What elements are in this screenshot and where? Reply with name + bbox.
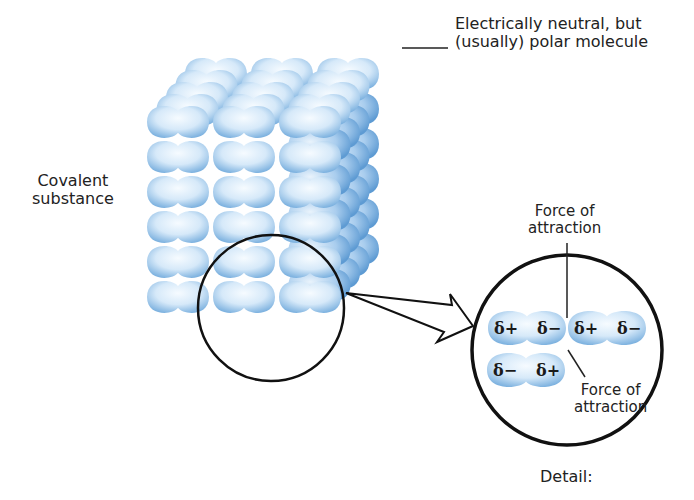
diagram-stage: δ+δ−δ+δ−δ−δ+ Electrically neutral, but (…: [0, 0, 694, 500]
magnify-arrow: [346, 293, 473, 342]
label-line: Electrically neutral, but: [455, 15, 648, 33]
partial-charge-label: δ+: [574, 319, 598, 338]
label-line: Force of: [528, 203, 601, 220]
lattice-molecule: [213, 141, 275, 173]
force-of-attraction-bottom-label: Force of attraction: [574, 382, 647, 415]
diagram-canvas: δ+δ−δ+δ−δ−δ+: [0, 0, 694, 500]
lattice-molecule: [213, 211, 275, 243]
label-line: (usually) polar molecule: [455, 33, 648, 51]
label-line: Covalent: [32, 172, 114, 190]
label-line: substance: [32, 190, 114, 208]
molecule-lattice-cube: [147, 58, 379, 313]
partial-charge-label: δ−: [537, 319, 561, 338]
lattice-molecule: [147, 246, 209, 278]
detail-caption: Detail:: [540, 468, 593, 486]
label-line: Force of: [574, 382, 647, 399]
covalent-substance-label: Covalent substance: [32, 172, 114, 207]
partial-charge-label: δ+: [536, 361, 560, 380]
label-line: attraction: [574, 399, 647, 416]
polar-molecule-label: Electrically neutral, but (usually) pola…: [455, 15, 648, 50]
lattice-molecule: [147, 176, 209, 208]
force-of-attraction-top-label: Force of attraction: [528, 203, 601, 236]
partial-charge-label: δ−: [617, 319, 641, 338]
lattice-molecule: [147, 211, 209, 243]
partial-charge-label: δ+: [494, 319, 518, 338]
lattice-molecule: [213, 281, 275, 313]
lattice-molecule: [213, 176, 275, 208]
lattice-molecule: [213, 246, 275, 278]
lattice-molecule: [147, 141, 209, 173]
partial-charge-label: δ−: [493, 361, 517, 380]
label-line: attraction: [528, 220, 601, 237]
